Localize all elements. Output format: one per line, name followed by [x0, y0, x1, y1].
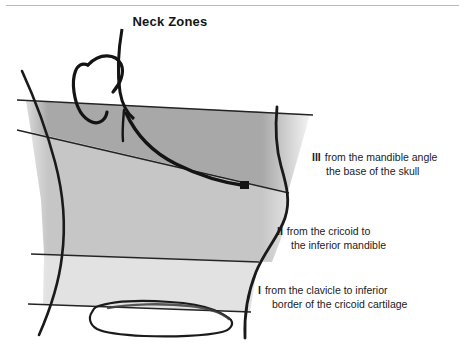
zone-3-label: IIIfrom the mandible angle the base of t…: [312, 150, 437, 178]
zone-3-line1: from the mandible angle: [325, 151, 438, 163]
zone-1-label: Ifrom the clavicle to inferior border of…: [258, 283, 407, 311]
zone-2-line2: the inferior mandible: [277, 238, 386, 252]
zone-3-line2: the base of the skull: [312, 164, 437, 178]
zone-2-numeral: II: [277, 225, 283, 237]
zone-1-line2: border of the cricoid cartilage: [258, 297, 407, 311]
zone-2-label: IIfrom the cricoid to the inferior mandi…: [277, 224, 386, 252]
jaw-hinge-stroke: [123, 110, 124, 141]
neck-zones-figure: Neck Zones: [0, 0, 465, 357]
zone-1-numeral: I: [258, 284, 261, 296]
mandible-angle-tip: [240, 181, 249, 189]
zone-3-numeral: III: [312, 151, 321, 163]
zone-1-line1: from the clavicle to inferior: [265, 284, 388, 296]
zone-2-line1: from the cricoid to: [287, 225, 370, 237]
